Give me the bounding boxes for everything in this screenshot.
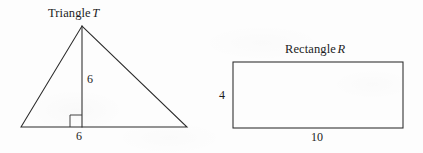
rectangle-title-symbol: R [336, 42, 345, 56]
rectangle-title: RectangleR [285, 43, 345, 56]
rectangle-width-label: 10 [311, 131, 323, 143]
triangle-title: TriangleT [48, 7, 99, 20]
rectangle-title-word: Rectangle [285, 42, 336, 56]
triangle-altitude-label: 6 [87, 73, 93, 85]
figure-vector-layer [0, 0, 423, 153]
triangle-title-word: Triangle [48, 6, 91, 20]
triangle-title-symbol: T [91, 6, 100, 20]
triangle-outline [21, 26, 187, 127]
triangle-base-label: 6 [76, 130, 82, 142]
geometry-figure: TriangleT 6 6 RectangleR 4 10 [0, 0, 423, 153]
rectangle-height-label: 4 [219, 89, 225, 101]
rectangle-outline [233, 62, 403, 128]
right-angle-marker-icon [70, 115, 82, 127]
